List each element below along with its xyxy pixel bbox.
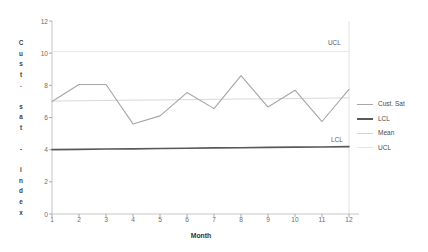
legend-swatch-line-icon: [357, 104, 373, 105]
x-axis-tick-label: 10: [287, 216, 303, 224]
control-chart: C u s t . s a t - i n d e x 024681012 UC…: [0, 0, 428, 252]
x-axis-tick-label: 1: [44, 216, 60, 224]
x-axis-title: Month: [166, 232, 236, 239]
legend-item-label: LCL: [378, 115, 390, 123]
x-axis-tick-label: 9: [260, 216, 276, 224]
legend-swatch-line-icon: [357, 133, 373, 134]
legend-item[interactable]: Mean: [357, 126, 425, 141]
y-axis-tick-label: 8: [28, 82, 48, 89]
legend-item[interactable]: Cust. Sat: [357, 97, 425, 112]
legend: Cust. SatLCLMeanUCL: [357, 97, 425, 155]
series-line-lcl: [52, 147, 349, 150]
legend-item[interactable]: LCL: [357, 112, 425, 127]
x-axis-tick-label: 12: [341, 216, 357, 224]
x-axis-tick-label: 3: [98, 216, 114, 224]
legend-swatch-line-icon: [357, 118, 373, 120]
x-axis-tick-labels: 123456789101112: [0, 216, 428, 228]
y-axis-tick-label: 6: [28, 114, 48, 121]
x-axis-tick-label: 8: [233, 216, 249, 224]
y-axis-tick-label: 12: [28, 18, 48, 25]
ucl-annotation-label: UCL: [328, 39, 341, 46]
y-axis-tick-label: 2: [28, 178, 48, 185]
y-axis-tick-labels: 024681012: [24, 0, 48, 252]
x-axis-tick-label: 4: [125, 216, 141, 224]
legend-item-label: UCL: [378, 144, 391, 152]
legend-item[interactable]: UCL: [357, 141, 425, 156]
x-axis-tick-label: 6: [179, 216, 195, 224]
y-axis-tick-label: 10: [28, 50, 48, 57]
legend-item-label: Mean: [378, 129, 394, 137]
legend-item-label: Cust. Sat: [378, 100, 405, 108]
data-series-group: [52, 52, 349, 150]
y-axis-tick-label: 4: [28, 146, 48, 153]
x-axis-tick-label: 5: [152, 216, 168, 224]
axes: [49, 21, 359, 217]
x-axis-tick-label: 2: [71, 216, 87, 224]
x-axis-tick-label: 11: [314, 216, 330, 224]
legend-swatch-line-icon: [357, 147, 373, 148]
lcl-annotation-label: LCL: [331, 136, 343, 143]
x-axis-tick-label: 7: [206, 216, 222, 224]
